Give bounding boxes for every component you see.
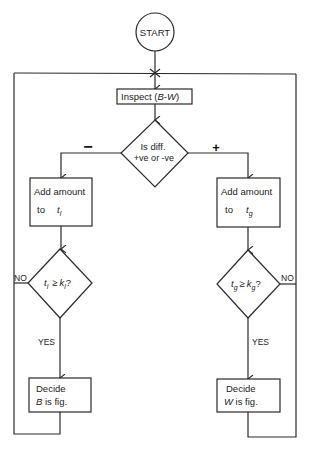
right-threshold-diamond: tg≥kg?: [217, 250, 280, 318]
inspect-label: Inspect (: [121, 91, 158, 102]
left-yes-label: YES: [38, 337, 55, 347]
start-label: START: [140, 27, 170, 38]
plus-sign-label: +: [212, 140, 220, 155]
inspect-box: Inspect (B-W): [117, 89, 192, 104]
flowchart-canvas: START Inspect (B-W) Is diff. +ve or -ve …: [0, 0, 309, 450]
svg-text:to: to: [37, 204, 45, 215]
right-add-amount-box: Add amount to tg: [217, 178, 280, 227]
left-threshold-diamond: tl≥kl?: [28, 249, 92, 318]
svg-text:B is fig.: B is fig.: [36, 396, 67, 407]
sign-decision-line2: +ve or -ve: [134, 153, 174, 163]
left-no-label: NO: [14, 273, 27, 283]
svg-text:Inspect (B-W): Inspect (B-W): [121, 91, 179, 102]
connector-minus-branch: [61, 153, 121, 178]
start-node: START: [136, 13, 174, 51]
svg-text:to: to: [225, 204, 233, 215]
right-yes-label: YES: [252, 337, 269, 347]
sign-decision-diamond: Is diff. +ve or -ve: [121, 120, 188, 187]
left-decide-line1: Decide: [36, 383, 66, 394]
minus-sign-label: −: [83, 138, 92, 155]
sign-decision-line1: Is diff.: [140, 141, 165, 152]
left-decide-box: Decide B is fig.: [29, 378, 91, 412]
left-add-line1: Add amount: [34, 186, 86, 197]
svg-text:W is fig.: W is fig.: [224, 396, 258, 407]
right-decide-line1: Decide: [226, 383, 256, 394]
connector-plus-branch: [188, 153, 248, 178]
right-add-line1: Add amount: [221, 186, 273, 197]
right-decide-box: Decide W is fig.: [217, 379, 280, 412]
right-no-label: NO: [281, 273, 294, 283]
left-add-amount-box: Add amount to tl: [30, 178, 92, 226]
